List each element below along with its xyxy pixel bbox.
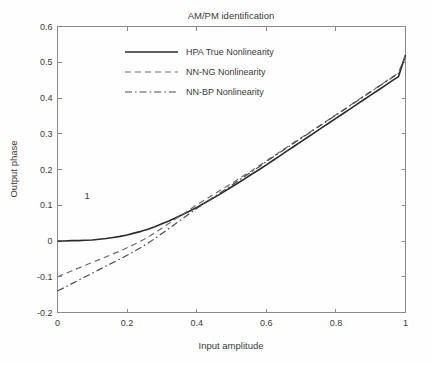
x-tick-label: 0 (55, 318, 60, 328)
series-line (58, 55, 406, 241)
y-tick-label: 0.1 (40, 200, 53, 210)
x-tick-label: 0.4 (190, 318, 203, 328)
x-axis-label: Input amplitude (199, 340, 264, 351)
y-tick-label: 0.6 (40, 22, 53, 32)
y-tick-label: -0.1 (37, 272, 53, 282)
x-tick-label: 0.6 (260, 318, 273, 328)
legend-label: NN-NG Nonlinearity (186, 67, 266, 77)
y-tick-label: 0 (47, 236, 52, 246)
y-tick-label: 0.3 (40, 129, 53, 139)
legend-label: NN-BP Nonlinearity (186, 87, 264, 97)
y-tick-label: 0.2 (40, 165, 53, 175)
y-tick-label: 0.4 (40, 93, 53, 103)
legend-label: HPA True Nonlinearity (186, 47, 274, 57)
x-tick-label: 1 (403, 318, 408, 328)
figure-canvas: 00.20.40.60.81-0.2-0.100.10.20.30.40.50.… (0, 0, 433, 365)
chart-plot: 00.20.40.60.81-0.2-0.100.10.20.30.40.50.… (0, 0, 433, 365)
y-axis-label: Output phase (8, 140, 19, 197)
plot-annotations: 1 (84, 190, 89, 201)
y-tick-label: -0.2 (37, 308, 53, 318)
y-tick-label: 0.5 (40, 57, 53, 67)
chart-legend: HPA True NonlinearityNN-NG NonlinearityN… (125, 47, 274, 97)
x-tick-label: 0.8 (330, 318, 343, 328)
x-tick-label: 0.2 (121, 318, 134, 328)
plot-annotation: 1 (84, 190, 89, 201)
chart-title: AM/PM identification (188, 10, 275, 21)
